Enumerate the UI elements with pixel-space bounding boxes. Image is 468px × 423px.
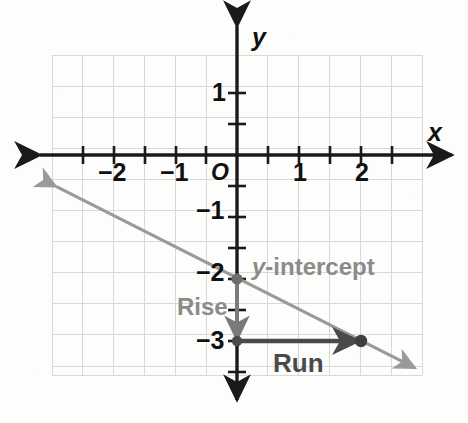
y-tick-label-neg3: −3 bbox=[196, 328, 225, 353]
x-axis-label: x bbox=[428, 120, 442, 145]
y-axis-label: y bbox=[252, 25, 266, 50]
coordinate-plane bbox=[0, 0, 468, 423]
graph-figure: x y O −2 −1 1 2 1 −1 −2 −3 y-intercept R… bbox=[0, 0, 468, 423]
x-tick-label-neg2: −2 bbox=[98, 160, 127, 185]
y-intercept-rest-text: -intercept bbox=[265, 253, 374, 280]
y-intercept-italic-y: y bbox=[252, 253, 265, 280]
y-tick-label-pos1: 1 bbox=[212, 80, 226, 105]
y-tick-label-neg2: −2 bbox=[196, 260, 225, 285]
x-tick-label-pos1: 1 bbox=[293, 160, 307, 185]
point-y-intercept bbox=[231, 273, 242, 284]
run-annotation: Run bbox=[273, 350, 324, 376]
y-tick-label-neg1: −1 bbox=[196, 198, 225, 223]
rise-annotation: Rise bbox=[177, 295, 228, 319]
y-intercept-annotation: y-intercept bbox=[252, 255, 375, 279]
point-run-origin bbox=[232, 336, 242, 346]
origin-label: O bbox=[211, 161, 229, 184]
x-tick-label-neg1: −1 bbox=[160, 160, 189, 185]
x-tick-label-pos2: 2 bbox=[355, 160, 369, 185]
point-second bbox=[355, 335, 367, 347]
